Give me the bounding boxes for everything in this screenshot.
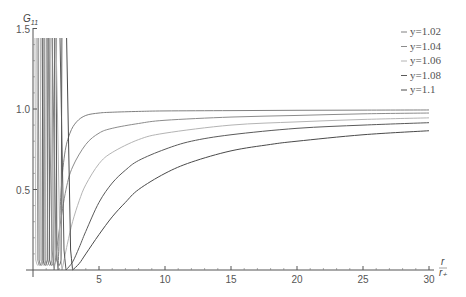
y-ticks: 0.51.01.5 [16, 24, 37, 254]
legend-label: y=1.1 [410, 83, 435, 95]
y-tick-label: 1.5 [16, 24, 30, 35]
chart: 51015202530 0.51.01.5 G11 r r₊ y=1.02y=1… [0, 0, 466, 297]
x-axis-title-denominator: r₊ [439, 267, 448, 278]
legend-label: y=1.06 [410, 54, 441, 66]
x-ticks: 51015202530 [46, 266, 435, 285]
x-tick-label: 30 [423, 274, 435, 285]
series-line-y-1-06 [56, 38, 429, 270]
x-tick-label: 5 [96, 274, 102, 285]
x-tick-label: 25 [357, 274, 369, 285]
legend-label: y=1.02 [410, 25, 441, 37]
y-tick-label: 1.0 [16, 104, 30, 115]
series-line-y-1-04 [48, 38, 429, 270]
x-axis-title-numerator: r [441, 256, 445, 267]
series-line-y-1-02 [52, 38, 429, 270]
legend-label: y=1.04 [410, 40, 441, 52]
x-tick-label: 15 [225, 274, 237, 285]
series-line-y-1-08 [60, 38, 429, 270]
data-series [48, 38, 429, 270]
legend-label: y=1.08 [410, 69, 441, 81]
series-line-y-1-1 [67, 38, 429, 270]
x-tick-label: 20 [291, 274, 303, 285]
x-tick-label: 10 [159, 274, 171, 285]
y-tick-label: 0.5 [16, 185, 30, 196]
legend: y=1.02y=1.04y=1.06y=1.08y=1.1 [401, 25, 441, 95]
